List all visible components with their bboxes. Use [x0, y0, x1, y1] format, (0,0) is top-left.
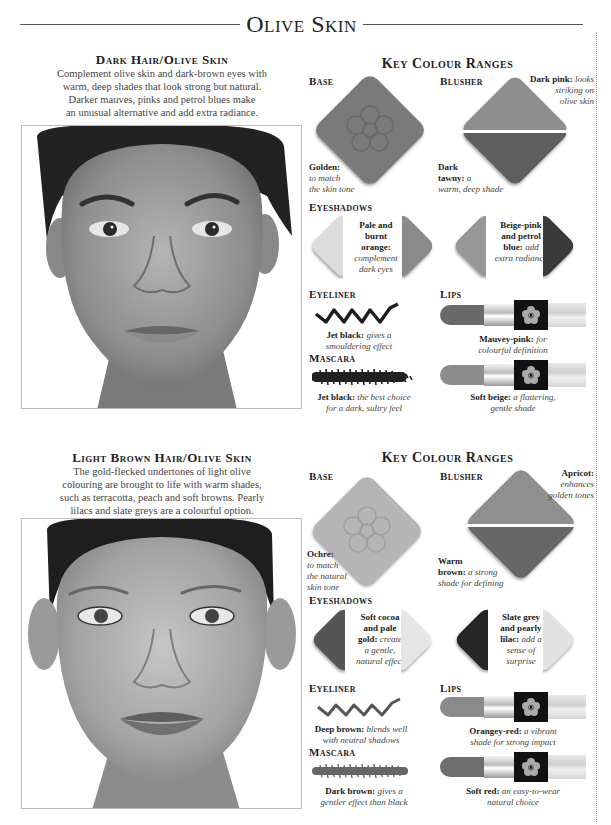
title-rule-right [363, 24, 583, 25]
shade-note: the skin tone [309, 184, 355, 194]
mascara-label: Mascara [309, 352, 356, 364]
title-rule-left [20, 24, 240, 25]
eyeshadow-pair1-note: Pale and burnt orange: complement dark e… [346, 220, 406, 275]
shade-name: orange: [361, 242, 391, 252]
description-line: Darker mauves, pinks and petrol blues ma… [22, 93, 302, 106]
shade-note: an easy-to-wear [502, 786, 560, 796]
eyeliner-note: Deep brown: blends well with neutral sha… [309, 724, 413, 746]
lipstick-bullet [440, 697, 486, 717]
shade-note: a flattering, [513, 392, 556, 402]
shade-name: Soft cocoa [360, 612, 399, 622]
shade-name: and petrol [501, 231, 541, 241]
flower-logo-icon [522, 366, 540, 384]
blusher-top-note: Apricot: enhances golden tones [520, 468, 594, 501]
portrait-photo [21, 518, 302, 809]
shade-note: with neutral shadows [322, 735, 399, 745]
shade-note: a gentle, [365, 645, 396, 655]
shade-note: shade for defining [438, 578, 504, 588]
key-colour-ranges-heading: Key Colour Ranges [315, 56, 580, 72]
lipstick-swatch [440, 752, 586, 782]
lip-note: Soft red: an easy-to-wear natural choice [440, 786, 586, 808]
shade-note: colourful definition [478, 345, 548, 355]
lipstick-swatch [440, 692, 586, 722]
eyeliner-stroke-swatch [314, 697, 404, 719]
key-colour-ranges-heading: Key Colour Ranges [315, 450, 580, 466]
shade-name: and pearly [500, 623, 541, 633]
shade-name: lilac: [500, 634, 519, 644]
shade-note: a [467, 173, 472, 183]
shade-note: looks [575, 74, 594, 84]
eyeshadow-swatch-right [402, 213, 438, 279]
shade-note: gentle shade [490, 403, 535, 413]
eyeshadow-swatch-left [452, 606, 488, 674]
shade-name: Soft red: [466, 786, 500, 796]
shade-note: striking on [555, 85, 594, 95]
description-line: Complement olive skin and dark-brown eye… [22, 67, 302, 80]
shade-note: surprise [506, 656, 536, 666]
shade-note: gives a [378, 786, 403, 796]
shade-note: to match [309, 173, 340, 183]
shade-note: for [536, 334, 547, 344]
shade-name: burnt [365, 231, 387, 241]
shade-note: skin tone [307, 582, 339, 592]
base-label: Base [309, 75, 334, 87]
section-description: The gold-flecked undertones of light oli… [22, 465, 302, 517]
portrait-illustration [22, 126, 302, 409]
shade-note: smouldering effect [326, 341, 393, 351]
shade-name: Dark pink: [530, 74, 573, 84]
shade-note: shade for strong impact [470, 737, 555, 747]
shade-note: olive skin [560, 96, 594, 106]
description-line: lilacs and slate greys are a colourful o… [22, 504, 302, 517]
lipstick-collar [484, 364, 514, 386]
eyeliner-label: Eyeliner [309, 288, 356, 300]
section-heading: Light Brown Hair/Olive Skin [22, 450, 302, 466]
shade-note: golden tones [548, 490, 594, 500]
shade-name: Apricot: [562, 468, 595, 478]
shade-name: Mauvey-pink: [479, 334, 534, 344]
lipstick-case [548, 303, 586, 327]
shade-name: Deep brown: [315, 724, 365, 734]
shade-note: blends well [367, 724, 408, 734]
shade-name: gold: [358, 634, 378, 644]
portrait-illustration [22, 519, 302, 809]
eyeshadow-swatch-right [543, 213, 581, 279]
shade-note: extra radiance [495, 253, 548, 263]
shade-name: Beige-pink [500, 220, 542, 230]
lip-note: Orangey-red: a vibrant shade for strong … [440, 726, 586, 748]
section-heading: Dark Hair/Olive Skin [22, 52, 302, 68]
shade-name: blue: [503, 242, 523, 252]
base-note: Golden: to match the skin tone [309, 162, 355, 195]
shade-note: a strong [468, 567, 497, 577]
eyeliner-label: Eyeliner [309, 682, 356, 694]
shade-name: Pale and [359, 220, 392, 230]
base-label: Base [309, 470, 334, 482]
shade-name: and pale [364, 623, 397, 633]
page-title-row: Olive Skin [20, 8, 583, 40]
shade-note: complement [354, 253, 397, 263]
shade-note: warm, deep shade [438, 184, 503, 194]
lipstick-swatch [440, 300, 586, 330]
shade-note: gentler effect than black [320, 797, 407, 807]
shade-note: add a [522, 634, 542, 644]
shade-name: Ochre: [307, 549, 334, 559]
mascara-note: Jet black: the best choice for a dark, s… [309, 392, 419, 414]
shade-note: the best choice [357, 392, 410, 402]
blusher-bottom-note: Dark tawny: a warm, deep shade [438, 162, 503, 195]
flower-logo-icon [522, 306, 540, 324]
lip-note: Mauvey-pink: for colourful definition [440, 334, 586, 356]
portrait-photo [21, 125, 302, 409]
lipstick-case [548, 695, 586, 719]
shade-note: enhances [561, 479, 595, 489]
description-line: warm, deep shades that look strong but n… [22, 80, 302, 93]
eyeshadow-swatch-left [309, 213, 343, 279]
shade-name: Dark [438, 162, 458, 172]
description-line: an unusual alternative and add extra rad… [22, 106, 302, 119]
flower-logo-icon [522, 698, 540, 716]
shade-note: for a dark, sultry feel [326, 403, 402, 413]
lipstick-collar [484, 756, 514, 778]
shade-note: gives a [366, 330, 391, 340]
shade-name: Soft beige: [470, 392, 511, 402]
page-title: Olive Skin [240, 11, 363, 38]
lipstick-collar [484, 304, 514, 326]
eyeliner-stroke-swatch [312, 302, 402, 324]
